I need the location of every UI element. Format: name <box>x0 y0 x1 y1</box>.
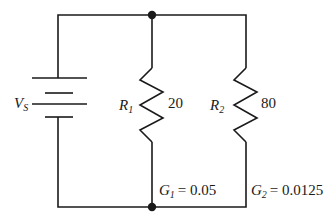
resistor-r1 <box>140 68 163 142</box>
r2-value: 80 <box>261 95 276 111</box>
resistor-r2 <box>234 68 257 142</box>
circuit-diagram: VS R1 20 R2 80 G1= 0.05 G2= 0.0125 <box>0 0 336 220</box>
r1-label: R1 <box>118 97 133 115</box>
r2-label: R2 <box>209 97 224 115</box>
g1-label: G1= 0.05 <box>159 182 216 200</box>
junction-dot-top <box>148 11 156 19</box>
r1-value: 20 <box>168 95 183 111</box>
source-label: VS <box>14 95 28 113</box>
battery-source <box>32 78 87 117</box>
junction-dot-bottom <box>148 203 156 211</box>
g2-label: G2= 0.0125 <box>251 182 323 200</box>
